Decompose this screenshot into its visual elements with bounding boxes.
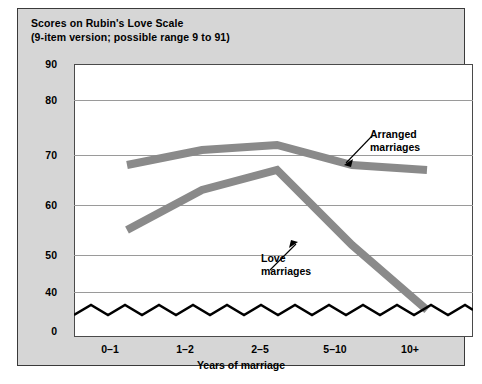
x-axis-title: Years of marriage (18, 359, 464, 371)
chart-title-line-1: Scores on Rubin's Love Scale (31, 17, 431, 31)
x-tick-label-0-1: 0–1 (80, 343, 140, 355)
chart-card: Scores on Rubin's Love Scale (9-item ver… (17, 8, 465, 366)
annotation-arranged-marriages: Arranged marriages (370, 128, 420, 153)
chart-title: Scores on Rubin's Love Scale (9-item ver… (31, 17, 431, 44)
y-tick-label-80: 80 (23, 94, 57, 106)
y-tick-label-40: 40 (23, 286, 57, 298)
y-tick-label-60: 60 (23, 199, 57, 211)
annotation-love-line-1: Love (261, 252, 311, 265)
annotation-arranged-line-2: marriages (370, 141, 420, 154)
plot-area (74, 64, 473, 337)
y-tick-label-50: 50 (23, 249, 57, 261)
chart-series-layer (74, 64, 473, 337)
series-line-love-marriages (127, 170, 427, 310)
annotation-leader-arranged (346, 136, 372, 163)
annotation-love-line-2: marriages (261, 265, 311, 278)
y-tick-label-70: 70 (23, 149, 57, 161)
annotation-arranged-line-1: Arranged (370, 128, 420, 141)
x-tick-label-10-plus: 10+ (380, 343, 440, 355)
annotation-love-marriages: Love marriages (261, 252, 311, 277)
x-tick-label-2-5: 2–5 (230, 343, 290, 355)
x-tick-label-1-2: 1–2 (155, 343, 215, 355)
y-tick-label-0: 0 (23, 325, 57, 337)
y-tick-label-90: 90 (23, 58, 57, 70)
chart-title-line-2: (9-item version; possible range 9 to 91) (31, 31, 431, 45)
x-tick-label-5-10: 5–10 (305, 343, 365, 355)
axis-break-zigzag (74, 305, 473, 315)
